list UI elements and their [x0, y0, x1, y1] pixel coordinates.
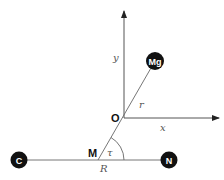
- atom-mg: Mg: [146, 52, 164, 70]
- x-axis-label: x: [160, 122, 166, 133]
- atom-c: C: [11, 152, 28, 169]
- origin-label: O: [111, 112, 120, 124]
- midpoint-m-label: M: [88, 147, 97, 159]
- atom-c-label: C: [16, 156, 23, 166]
- angle-tau-arc: [111, 138, 124, 161]
- distance-r-label: r: [139, 99, 145, 110]
- atom-n-label: N: [166, 156, 173, 166]
- y-axis-label: y: [112, 52, 119, 63]
- angle-tau-label: τ: [107, 147, 113, 158]
- m-to-mg-line: [98, 61, 155, 160]
- atom-n: N: [161, 152, 178, 169]
- diagram-canvas: Mg C N y x O r M τ R: [0, 0, 224, 180]
- distance-R-label: R: [99, 163, 108, 174]
- atom-mg-label: Mg: [149, 57, 162, 67]
